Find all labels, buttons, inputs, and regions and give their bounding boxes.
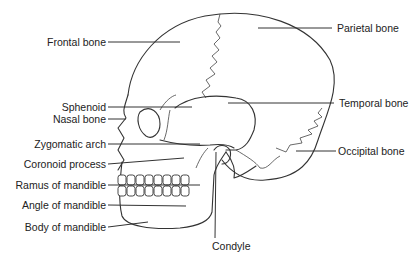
- label-condyle: Condyle: [212, 240, 251, 252]
- label-ramus-of-mandible: Ramus of mandible: [16, 179, 106, 191]
- leader-coronoid: [108, 158, 184, 164]
- label-occipital-bone: Occipital bone: [338, 145, 405, 157]
- label-body-of-mandible: Body of mandible: [25, 221, 106, 233]
- label-sphenoid: Sphenoid: [62, 101, 106, 113]
- label-angle-of-mandible: Angle of mandible: [22, 199, 106, 211]
- label-frontal-bone: Frontal bone: [47, 36, 106, 48]
- skull-diagram: Frontal bone Sphenoid Nasal bone Zygomat…: [0, 0, 418, 263]
- leader-condyle: [215, 152, 216, 238]
- label-nasal-bone: Nasal bone: [53, 113, 106, 125]
- label-coronoid-process: Coronoid process: [24, 158, 106, 170]
- label-parietal-bone: Parietal bone: [337, 22, 399, 34]
- label-zygomatic-arch: Zygomatic arch: [34, 138, 106, 150]
- label-temporal-bone: Temporal bone: [339, 97, 408, 109]
- leader-body: [108, 222, 148, 227]
- leader-angle: [108, 205, 186, 206]
